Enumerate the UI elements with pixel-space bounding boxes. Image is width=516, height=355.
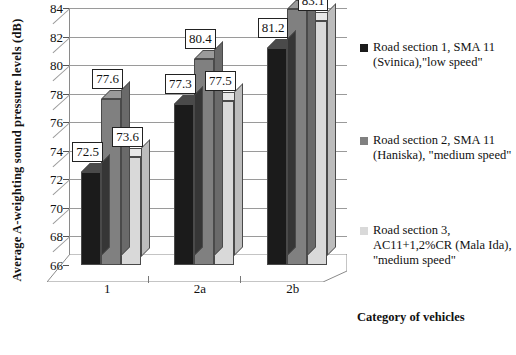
data-label: 80.4 xyxy=(185,29,216,49)
y-axis-tick-mark xyxy=(63,122,69,123)
legend-swatch-icon xyxy=(360,44,368,52)
y-axis-tick-mark xyxy=(63,94,69,95)
bar-front-face xyxy=(267,48,287,265)
y-axis-tick-label: 84 xyxy=(23,2,63,15)
bar-side-face xyxy=(287,30,296,256)
y-axis-tick-label: 68 xyxy=(23,230,63,243)
legend-item-label: Road section 1, SMA 11 (Svinica),"low sp… xyxy=(373,40,512,70)
bar-side-face xyxy=(327,3,336,256)
y-axis-tick-label: 76 xyxy=(23,116,63,129)
y-axis-tick-label: 80 xyxy=(23,59,63,72)
data-label: 77.3 xyxy=(165,74,196,94)
bar-side-face xyxy=(307,0,316,256)
y-axis-tick-mark xyxy=(63,65,69,66)
bar xyxy=(81,172,101,265)
y-axis-tick-label: 82 xyxy=(23,31,63,44)
y-axis-tick-label: 74 xyxy=(23,145,63,158)
y-axis-tick-mark xyxy=(63,151,69,152)
legend-item-label: Road section 2, SMA 11 (Haniska), "mediu… xyxy=(373,133,512,163)
y-axis-tick-label: 66 xyxy=(23,259,63,272)
x-axis-title: Category of vehicles xyxy=(357,310,465,325)
x-axis-tick-label: 2a xyxy=(170,281,230,297)
data-label: 77.6 xyxy=(92,69,123,89)
bar xyxy=(174,104,194,265)
legend-swatch-icon xyxy=(360,137,368,145)
bar-side-face xyxy=(194,86,203,256)
x-axis-tick-label: 1 xyxy=(77,281,137,297)
x-axis-divider xyxy=(148,276,149,283)
y-axis-tick-mark xyxy=(63,208,69,209)
data-label: 77.5 xyxy=(205,71,236,91)
chart-plot-area: 84828078767472706866 72.577.673.677.380.… xyxy=(47,8,347,293)
y-axis-tick-mark xyxy=(63,8,69,9)
y-axis-tick-label: 72 xyxy=(23,173,63,186)
data-label: 81.2 xyxy=(258,18,289,38)
y-axis-tick-mark xyxy=(63,265,69,266)
y-axis-tick-label: 78 xyxy=(23,88,63,101)
bar-side-face xyxy=(101,154,110,256)
bar-front-face xyxy=(174,104,194,265)
legend-item-1[interactable]: Road section 1, SMA 11 (Svinica),"low sp… xyxy=(360,40,512,70)
bar-side-face xyxy=(121,81,130,256)
data-label: 72.5 xyxy=(72,142,103,162)
legend-item-label: Road section 3, AC11+1,2%CR (Mala Ida), … xyxy=(373,223,512,268)
bar-front-face xyxy=(81,172,101,265)
data-label: 73.6 xyxy=(112,127,143,147)
bar-side-face xyxy=(141,139,150,257)
x-axis-divider xyxy=(240,276,241,283)
data-label: 83.1 xyxy=(298,0,329,11)
y-axis-tick-mark xyxy=(63,37,69,38)
legend-item-2[interactable]: Road section 2, SMA 11 (Haniska), "mediu… xyxy=(360,133,512,163)
x-axis-tick-label: 2b xyxy=(263,281,323,297)
legend-swatch-icon xyxy=(360,227,368,235)
y-axis-tick-label: 70 xyxy=(23,202,63,215)
y-axis-tick-mark xyxy=(63,236,69,237)
y-axis-tick-mark xyxy=(63,179,69,180)
bar-side-face xyxy=(234,83,243,256)
bar xyxy=(267,48,287,265)
legend-item-3[interactable]: Road section 3, AC11+1,2%CR (Mala Ida), … xyxy=(360,223,512,268)
